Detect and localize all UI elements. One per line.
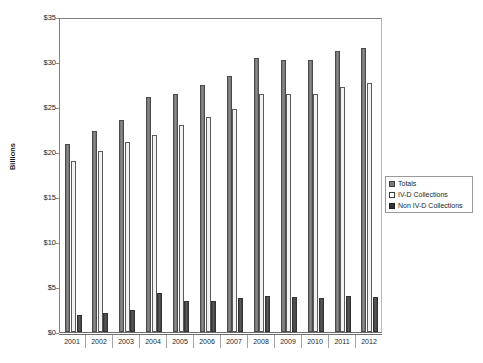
legend-item-ivd: IV-D Collections — [386, 189, 472, 200]
x-axis-label-2007: 2007 — [221, 335, 248, 348]
x-axis-label-2005: 2005 — [167, 335, 194, 348]
bar-2002-totals — [92, 131, 97, 332]
chart-title — [0, 0, 483, 4]
bar-2007-ivd — [232, 109, 237, 332]
legend-label: Totals — [398, 179, 416, 189]
bar-2004-totals — [146, 97, 151, 332]
bar-2003-nonivd — [130, 310, 135, 333]
legend-item-totals: Totals — [386, 178, 472, 189]
bar-2009-totals — [281, 60, 286, 332]
bar-2008-nonivd — [265, 296, 270, 332]
bar-2011-ivd — [340, 87, 345, 332]
y-tick-label: $25 — [14, 104, 56, 112]
bar-2011-nonivd — [346, 296, 351, 332]
legend-item-nonivd: Non IV-D Collections — [386, 200, 472, 211]
bar-2007-nonivd — [238, 298, 243, 332]
bar-2010-nonivd — [319, 298, 324, 332]
bar-2005-ivd — [179, 125, 184, 332]
x-axis-label-2004: 2004 — [140, 335, 167, 348]
y-tick-label: $15 — [14, 194, 56, 202]
y-tick-label: $5 — [14, 284, 56, 292]
bar-2008-totals — [254, 58, 259, 332]
bar-2004-ivd — [152, 135, 157, 332]
bar-2003-totals — [119, 120, 124, 332]
x-axis-label-2010: 2010 — [302, 335, 329, 348]
y-tick-label: $0 — [14, 329, 56, 337]
bar-2011-totals — [335, 51, 340, 332]
bar-2002-ivd — [98, 151, 103, 332]
legend-swatch-icon-totals — [389, 181, 395, 187]
legend-label: Non IV-D Collections — [398, 201, 463, 211]
y-tick-label: $35 — [14, 14, 56, 22]
y-tick-label: $30 — [14, 59, 56, 67]
bar-2005-totals — [173, 94, 178, 332]
bar-2006-totals — [200, 85, 205, 332]
bar-2001-nonivd — [77, 315, 82, 332]
chart-legend: TotalsIV-D CollectionsNon IV-D Collectio… — [385, 176, 473, 213]
bar-2005-nonivd — [184, 301, 189, 332]
bar-2001-totals — [65, 144, 70, 332]
bar-2001-ivd — [71, 161, 76, 332]
x-axis-label-2008: 2008 — [248, 335, 275, 348]
x-axis-label-2012: 2012 — [356, 335, 382, 348]
x-axis-label-2006: 2006 — [194, 335, 221, 348]
x-axis-categories: 2001200220032004200520062007200820092010… — [59, 334, 382, 348]
x-axis-label-2011: 2011 — [329, 335, 356, 348]
x-axis-label-2009: 2009 — [275, 335, 302, 348]
legend-swatch-icon-nonivd — [389, 203, 395, 209]
x-axis-label-2003: 2003 — [113, 335, 140, 348]
bar-2010-ivd — [313, 94, 318, 332]
bar-2003-ivd — [125, 142, 130, 332]
y-tick-label: $10 — [14, 239, 56, 247]
bar-2008-ivd — [259, 94, 264, 332]
bar-2006-ivd — [206, 117, 211, 332]
legend-swatch-icon-ivd — [389, 192, 395, 198]
bar-2012-totals — [361, 48, 366, 332]
bar-2007-totals — [227, 76, 232, 333]
y-tick-label: $20 — [14, 149, 56, 157]
x-axis-label-2001: 2001 — [59, 335, 86, 348]
plot-area — [59, 18, 382, 333]
bar-2002-nonivd — [103, 313, 108, 332]
bar-2004-nonivd — [157, 293, 162, 332]
bar-2009-nonivd — [292, 297, 297, 332]
bar-chart: Billions $35$30$25$20$15$10$5$0 20012002… — [0, 0, 483, 363]
legend-label: IV-D Collections — [398, 190, 448, 200]
bar-2012-nonivd — [373, 297, 378, 332]
x-axis-label-2002: 2002 — [86, 335, 113, 348]
bar-2009-ivd — [286, 94, 291, 332]
bar-2012-ivd — [367, 83, 372, 332]
bar-2006-nonivd — [211, 301, 216, 333]
bar-2010-totals — [308, 60, 313, 332]
